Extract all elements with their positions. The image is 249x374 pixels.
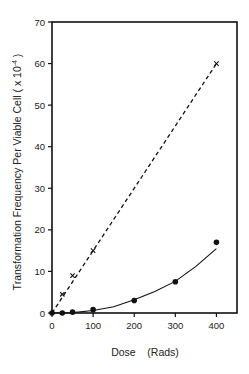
- plot-frame: [52, 22, 237, 313]
- circle-marker-icon: [173, 279, 179, 285]
- x-tick-label: 0: [49, 320, 54, 331]
- dose-response-chart: 010203040506070 0100200300400 Dose (Rads…: [0, 0, 249, 374]
- y-tick-label: 30: [34, 183, 45, 194]
- y-tick-label: 70: [34, 17, 45, 28]
- x-axis-ticks: 0100200300400: [49, 313, 224, 331]
- circle-series-fit-curve: [52, 249, 216, 313]
- y-axis-ticks: 010203040506070: [34, 17, 52, 319]
- y-tick-label: 20: [34, 224, 45, 235]
- circle-marker-icon: [214, 240, 220, 246]
- y-tick-label: 50: [34, 100, 45, 111]
- x-series-fit-line: [52, 64, 216, 313]
- circle-marker-icon: [70, 309, 76, 315]
- y-axis-title-main: Transformation Frequency Per Viable Cell…: [11, 66, 23, 290]
- circle-marker-icon: [90, 307, 96, 313]
- circle-marker-icon: [131, 298, 137, 304]
- y-tick-label: 40: [34, 141, 45, 152]
- y-tick-label: 0: [40, 308, 45, 319]
- x-marker-icon: [214, 61, 218, 65]
- x-tick-label: 200: [126, 320, 142, 331]
- circle-marker-icon: [59, 310, 65, 316]
- x-marker-icon: [91, 248, 95, 252]
- x-tick-label: 300: [167, 320, 183, 331]
- x-marker-series: [52, 61, 219, 313]
- y-axis-title-close: ): [11, 54, 23, 60]
- x-marker-icon: [70, 273, 74, 277]
- x-tick-label: 100: [85, 320, 101, 331]
- y-tick-label: 10: [34, 266, 45, 277]
- circle-marker-icon: [49, 310, 55, 316]
- y-tick-label: 60: [34, 58, 45, 69]
- x-tick-label: 400: [209, 320, 225, 331]
- x-axis-title: Dose (Rads): [111, 346, 179, 358]
- y-axis-title: Transformation Frequency Per Viable Cell…: [11, 54, 23, 291]
